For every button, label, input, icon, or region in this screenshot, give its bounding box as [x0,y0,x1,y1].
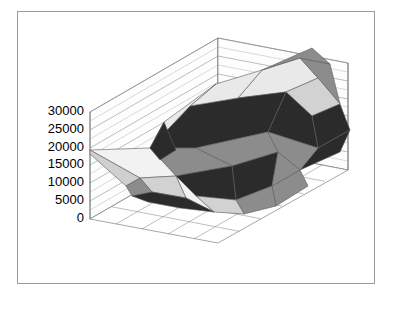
chart-container: 30000 25000 20000 15000 10000 5000 0 [0,0,394,309]
z-tick-label: 25000 [48,121,84,136]
z-tick-label: 0 [77,210,84,225]
z-tick-label: 5000 [55,192,84,207]
z-tick-label: 10000 [48,174,84,189]
z-tick-label: 20000 [48,139,84,154]
z-axis-labels: 30000 25000 20000 15000 10000 5000 0 [48,103,84,225]
z-tick-label: 30000 [48,103,84,118]
surface-plot: 30000 25000 20000 15000 10000 5000 0 [0,0,394,309]
z-tick-label: 15000 [48,156,84,171]
